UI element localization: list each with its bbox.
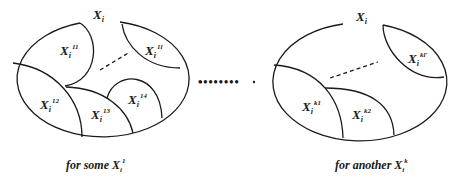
right-region-k2-label: Xik2 — [352, 108, 371, 121]
left-dashed-line — [100, 52, 130, 70]
right-set-boundary — [273, 24, 447, 141]
left-region-13-label: Xi13 — [91, 108, 110, 121]
left-region-12-label: Xi12 — [40, 98, 59, 111]
left-set-title: Xi — [93, 8, 104, 21]
right-set-title: Xi — [356, 10, 367, 23]
separator-dots: •••••••• — [198, 76, 240, 88]
left-region-1l-label: Xi1l — [145, 44, 162, 57]
left-region-14-label: Xi14 — [128, 93, 147, 106]
right-region-k1-label: Xik1 — [302, 100, 321, 113]
right-set-caption: for another Xik — [335, 159, 408, 171]
dot-marker — [253, 81, 255, 83]
right-region-kl-label: Xikl' — [408, 52, 427, 65]
right-dashed-line — [330, 62, 378, 78]
left-region-11-label: Xi11 — [60, 44, 79, 57]
left-set-caption: for some Xi1 — [66, 159, 125, 171]
diagram-canvas — [0, 0, 454, 183]
